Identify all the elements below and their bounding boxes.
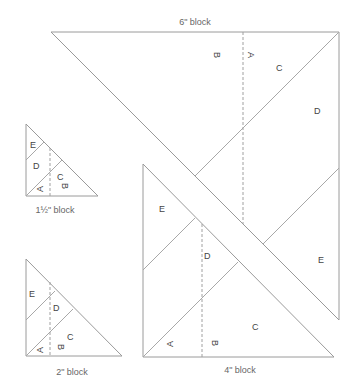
caption-4-inch: 4" block	[224, 365, 256, 375]
label-e: E	[318, 255, 324, 265]
label-e: E	[29, 289, 35, 299]
caption-6-inch: 6" block	[179, 17, 211, 27]
label-c: C	[276, 63, 283, 73]
label-a: A	[35, 186, 45, 192]
label-a: A	[165, 341, 175, 347]
label-c: C	[57, 172, 64, 182]
label-a: A	[35, 347, 45, 353]
label-c: C	[67, 332, 74, 342]
label-a: A	[246, 52, 256, 58]
label-d: D	[33, 161, 40, 171]
label-b: B	[212, 52, 222, 58]
caption-2-inch: 2" block	[56, 367, 88, 377]
block-1-5-inch: 1½" block E D C A B	[26, 124, 98, 215]
label-c: C	[252, 322, 259, 332]
block-6-inch: 6" block B A C D E	[51, 17, 339, 320]
label-d: D	[204, 251, 211, 261]
caption-1-5-inch: 1½" block	[35, 205, 75, 215]
block-4-inch: 4" block E D C A B	[143, 164, 334, 375]
label-b: B	[56, 344, 66, 350]
label-d: D	[314, 106, 321, 116]
label-d: D	[53, 303, 60, 313]
label-e: E	[30, 140, 36, 150]
block-2-inch: 2" block E D C A B	[26, 259, 122, 377]
quilt-block-diagram: 6" block B A C D E 4" block E D C A B 1½…	[0, 0, 359, 386]
label-b: B	[210, 340, 220, 346]
label-b: B	[60, 183, 70, 189]
label-e: E	[159, 204, 165, 214]
